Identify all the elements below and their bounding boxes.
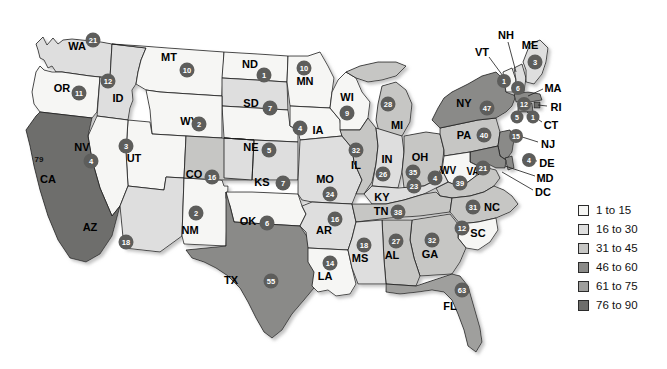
state-label-DC: DC xyxy=(535,186,551,198)
state-bubble-AZ[interactable]: 18 xyxy=(119,235,134,250)
state-bubble-SD[interactable]: 7 xyxy=(263,101,278,116)
state-bubble-MN[interactable]: 10 xyxy=(297,61,312,76)
state-label-IA: IA xyxy=(313,124,324,136)
legend-item-5[interactable]: 76 to 90 xyxy=(578,296,664,315)
state-value-PA: 40 xyxy=(480,131,488,140)
state-label-NJ: NJ xyxy=(541,138,555,150)
state-value-KY: 23 xyxy=(410,182,418,191)
state-value-NY: 47 xyxy=(483,104,491,113)
state-value-WY: 2 xyxy=(197,120,201,129)
state-label-NY: NY xyxy=(456,97,472,109)
state-bubble-TN[interactable]: 38 xyxy=(391,205,406,220)
state-bubble-UT[interactable]: 3 xyxy=(119,139,134,154)
state-bubble-SC[interactable]: 12 xyxy=(455,221,470,236)
state-bubble-ND[interactable]: 1 xyxy=(257,68,272,83)
state-bubble-ID[interactable]: 12 xyxy=(101,74,116,89)
state-label-WA: WA xyxy=(68,40,86,52)
state-bubble-KY[interactable]: 23 xyxy=(407,179,422,194)
state-label-MS: MS xyxy=(352,252,369,264)
state-bubble-MA[interactable]: 12 xyxy=(517,97,531,111)
state-bubble-OH[interactable]: 35 xyxy=(406,165,421,180)
state-bubble-GA[interactable]: 32 xyxy=(425,233,440,248)
state-label-CT: CT xyxy=(544,119,559,131)
state-label-LA: LA xyxy=(318,270,333,282)
state-bubble-OR[interactable]: 11 xyxy=(72,86,87,101)
state-bubble-MS[interactable]: 18 xyxy=(357,238,372,253)
state-bubble-PA[interactable]: 40 xyxy=(477,128,492,143)
leader-line-DC xyxy=(502,172,533,190)
state-bubble-WV[interactable]: 4 xyxy=(428,171,443,186)
legend-swatch-0 xyxy=(578,205,589,216)
state-bubble-NM[interactable]: 2 xyxy=(189,206,204,221)
state-label-VT: VT xyxy=(475,46,489,58)
state-bubble-TX[interactable]: 55 xyxy=(264,274,279,289)
state-value-OK: 6 xyxy=(265,219,269,228)
state-bubble-ME[interactable]: 3 xyxy=(528,55,543,70)
state-label-NM: NM xyxy=(181,224,198,236)
state-bubble-DE[interactable]: 4 xyxy=(522,153,536,167)
state-bubble-IA[interactable]: 4 xyxy=(293,121,308,136)
state-label-TN: TN xyxy=(374,205,389,217)
state-label-AZ: AZ xyxy=(83,221,98,233)
state-bubble-CT[interactable]: 5 xyxy=(511,111,524,124)
state-bubble-WY[interactable]: 2 xyxy=(192,117,207,132)
state-label-CA: CA xyxy=(40,173,56,185)
state-bubble-OK[interactable]: 6 xyxy=(260,216,275,231)
state-bubble-NY[interactable]: 47 xyxy=(480,101,495,116)
legend-item-2[interactable]: 31 to 45 xyxy=(578,239,664,258)
state-value-VA: 39 xyxy=(456,179,464,188)
state-bubble-NJ[interactable]: 15 xyxy=(509,129,523,143)
state-label-MO: MO xyxy=(316,173,334,185)
legend-item-4[interactable]: 61 to 75 xyxy=(578,277,664,296)
state-value-FL: 63 xyxy=(458,286,466,295)
state-bubble-MD[interactable]: 21 xyxy=(476,161,491,176)
legend-item-1[interactable]: 16 to 30 xyxy=(578,220,664,239)
state-value-MA: 12 xyxy=(520,101,528,108)
state-shape-KS[interactable] xyxy=(224,138,298,180)
state-value-IL: 32 xyxy=(352,146,360,155)
state-bubble-RI[interactable]: 1 xyxy=(527,111,540,124)
state-label-WV: WV xyxy=(440,165,456,176)
legend-label-4: 61 to 75 xyxy=(596,281,638,293)
state-label-NV: NV xyxy=(74,141,90,153)
state-bubble-MI[interactable]: 28 xyxy=(381,97,396,112)
state-bubble-AL[interactable]: 27 xyxy=(389,234,404,249)
us-choropleth-map-figure: WA OR ID MT ND SD NE MN WI MI IA WY UT N… xyxy=(0,0,667,369)
state-value-WI: 9 xyxy=(345,109,349,118)
state-value-VT: 1 xyxy=(502,78,506,85)
state-bubble-WA[interactable]: 21 xyxy=(86,33,101,48)
state-bubble-FL[interactable]: 63 xyxy=(455,283,470,298)
state-value-CA-inline: 79 xyxy=(35,155,44,164)
state-value-WA: 21 xyxy=(89,36,97,45)
state-bubble-KS[interactable]: 7 xyxy=(276,176,291,191)
state-shape-NE[interactable] xyxy=(222,106,298,142)
state-label-AR: AR xyxy=(316,224,332,236)
legend-item-3[interactable]: 46 to 60 xyxy=(578,258,664,277)
state-value-SC: 12 xyxy=(458,224,466,233)
state-bubble-CO[interactable]: 16 xyxy=(205,170,220,185)
state-bubble-NH[interactable]: 6 xyxy=(511,81,525,95)
leader-line-MD xyxy=(505,166,535,176)
state-value-IN: 26 xyxy=(379,170,387,179)
state-bubble-IL[interactable]: 32 xyxy=(349,143,364,158)
state-bubble-WI[interactable]: 9 xyxy=(340,106,355,121)
state-value-SD: 7 xyxy=(268,104,272,113)
state-label-FL: FL xyxy=(443,300,457,312)
state-bubble-NV[interactable]: 4 xyxy=(84,154,99,169)
state-bubble-VA[interactable]: 39 xyxy=(453,176,468,191)
legend-item-0[interactable]: 1 to 15 xyxy=(578,201,664,220)
state-label-OK: OK xyxy=(240,215,257,227)
state-label-IL: IL xyxy=(351,159,361,171)
state-bubble-LA[interactable]: 14 xyxy=(323,256,338,271)
state-bubble-VT[interactable]: 1 xyxy=(497,74,511,88)
state-label-MD: MD xyxy=(536,172,553,184)
state-bubble-AR[interactable]: 16 xyxy=(328,212,343,227)
state-label-MI: MI xyxy=(391,119,403,131)
state-bubble-NC[interactable]: 31 xyxy=(466,200,481,215)
state-bubble-IN[interactable]: 26 xyxy=(376,167,391,182)
state-bubble-MO[interactable]: 24 xyxy=(323,187,338,202)
state-bubble-MT[interactable]: 10 xyxy=(180,63,195,78)
state-bubble-NE[interactable]: 5 xyxy=(262,143,277,158)
state-label-ID: ID xyxy=(113,92,124,104)
state-label-AL: AL xyxy=(385,249,400,261)
